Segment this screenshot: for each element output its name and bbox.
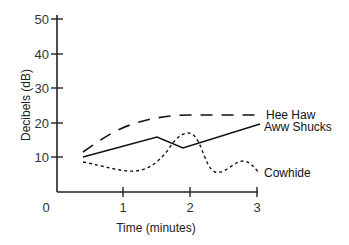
y-tick-label-50: 50: [35, 12, 49, 27]
series-label-aww-shucks: Aww Shucks: [264, 120, 332, 134]
series-aww-shucks-line: [83, 124, 260, 157]
y-tick-label-10: 10: [35, 150, 49, 165]
x-tick-label-2: 2: [186, 200, 193, 215]
line-chart: 50 40 30 20 10 0 1 2 3 Time (minutes) De…: [0, 0, 349, 245]
x-axis-title: Time (minutes): [116, 221, 196, 235]
origin-label: 0: [42, 200, 49, 215]
x-tick-label-1: 1: [119, 200, 126, 215]
series-label-cowhide: Cowhide: [264, 166, 311, 180]
y-tick-label-20: 20: [35, 116, 49, 131]
x-tick-label-3: 3: [253, 200, 260, 215]
series-cowhide-line: [83, 133, 259, 172]
y-tick-label-40: 40: [35, 47, 49, 62]
y-tick-label-30: 30: [35, 81, 49, 96]
y-axis-title: Decibels (dB): [19, 69, 33, 141]
